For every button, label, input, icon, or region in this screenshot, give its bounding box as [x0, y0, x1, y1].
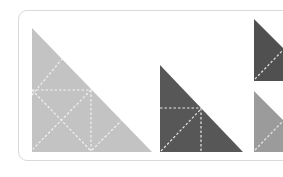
small-triangle-bottom [254, 91, 283, 152]
tangram-diagram [0, 0, 283, 177]
large-triangle [32, 28, 152, 152]
medium-triangle [160, 65, 243, 152]
small-triangle-top [254, 19, 283, 81]
